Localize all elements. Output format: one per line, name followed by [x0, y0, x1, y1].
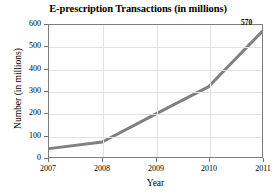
x-tick-mark	[48, 158, 49, 162]
y-tick-label: 600	[10, 20, 41, 28]
y-tick-mark	[44, 113, 48, 114]
x-tick-label: 2010	[189, 165, 229, 173]
y-tick-label: 100	[10, 132, 41, 140]
x-tick-mark	[156, 158, 157, 162]
y-tick-mark	[44, 69, 48, 70]
gridline-vertical	[103, 25, 104, 157]
x-tick-mark	[263, 158, 264, 162]
x-tick-label: 2007	[28, 165, 68, 173]
chart-title: E-prescription Transactions (in millions…	[0, 2, 276, 15]
series-polyline	[49, 32, 262, 149]
y-tick-label: 500	[10, 42, 41, 50]
y-tick-mark	[44, 136, 48, 137]
gridline-horizontal	[49, 47, 262, 48]
y-tick-label: 0	[10, 154, 41, 162]
y-tick-label: 400	[10, 65, 41, 73]
y-tick-mark	[44, 46, 48, 47]
gridline-horizontal	[49, 70, 262, 71]
chart-figure: E-prescription Transactions (in millions…	[0, 0, 276, 195]
x-tick-label: 2008	[82, 165, 122, 173]
x-axis-title: Year	[48, 178, 263, 189]
x-tick-mark	[209, 158, 210, 162]
x-tick-label: 2011	[243, 165, 276, 173]
data-label-570: 570	[241, 19, 252, 27]
gridline-vertical	[157, 25, 158, 157]
y-tick-label: 300	[10, 87, 41, 95]
y-tick-label: 200	[10, 109, 41, 117]
y-tick-mark	[44, 91, 48, 92]
x-tick-mark	[102, 158, 103, 162]
gridline-horizontal	[49, 92, 262, 93]
y-tick-mark	[44, 24, 48, 25]
plot-area	[48, 24, 263, 158]
x-tick-label: 2009	[136, 165, 176, 173]
gridline-horizontal	[49, 137, 262, 138]
gridline-vertical	[210, 25, 211, 157]
gridline-horizontal	[49, 114, 262, 115]
